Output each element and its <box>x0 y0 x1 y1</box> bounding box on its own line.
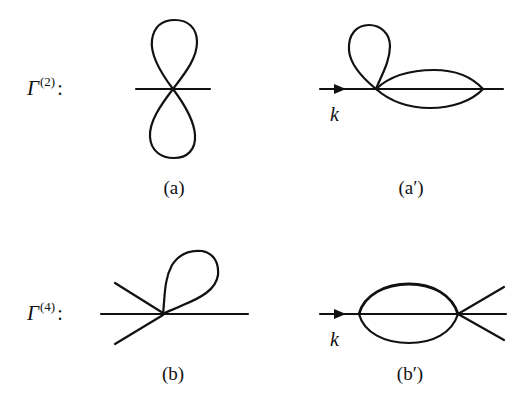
row-label-gamma-4: Γ(4): <box>27 303 63 324</box>
momentum-arrow-icon <box>334 84 346 94</box>
external-leg-upper <box>458 287 504 314</box>
gamma-colon: : <box>57 302 63 324</box>
row-label-gamma-2: Γ(2): <box>27 78 63 99</box>
feynman-diagrams-canvas <box>0 0 531 404</box>
external-leg-lower <box>115 315 163 344</box>
diagram-a-prime <box>320 25 503 108</box>
gamma-superscript: (4) <box>40 299 55 314</box>
external-leg-upper <box>115 283 163 313</box>
diagram-a <box>136 20 210 158</box>
lens-upper-arc <box>359 284 458 314</box>
diagram-b-prime <box>320 284 506 343</box>
momentum-label-a-prime: k <box>330 104 339 124</box>
caption-b: (b) <box>162 364 184 383</box>
caption-a: (a) <box>163 178 184 197</box>
tadpole-loop <box>349 25 390 89</box>
lower-loop <box>150 89 195 158</box>
external-leg-lower <box>458 314 504 340</box>
gamma-superscript: (2) <box>40 74 55 89</box>
momentum-arrow-icon <box>334 309 346 319</box>
momentum-label-b-prime: k <box>330 329 339 349</box>
caption-b-prime: (b′) <box>397 364 423 383</box>
lens-lower-arc <box>376 89 483 108</box>
lens-upper-arc <box>376 70 483 89</box>
gamma-symbol: Γ <box>27 301 39 325</box>
lens-lower-arc <box>359 314 458 343</box>
gamma-symbol: Γ <box>27 76 39 100</box>
gamma-colon: : <box>57 77 63 99</box>
tadpole-loop <box>163 251 218 314</box>
caption-a-prime: (a′) <box>398 178 423 197</box>
diagram-b <box>101 251 248 344</box>
upper-loop <box>152 20 197 89</box>
